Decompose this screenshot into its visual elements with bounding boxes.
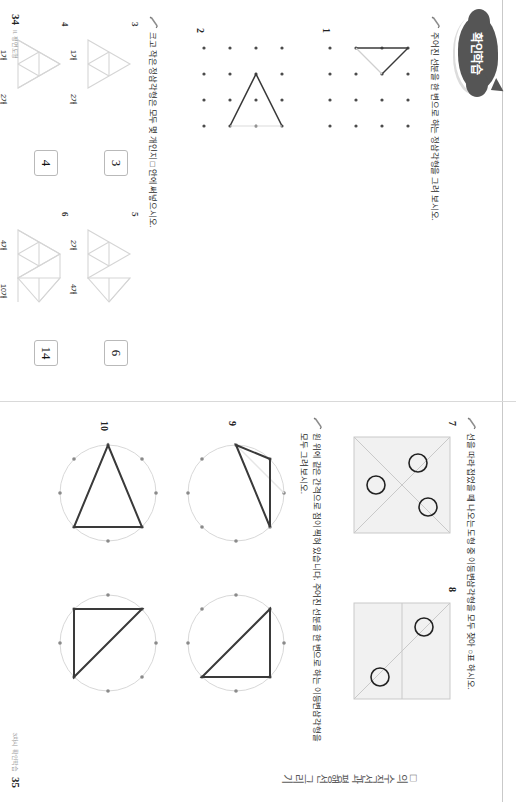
- right-page: □의 수직선과 평행선 그리기 선을 따라 접었을 때 나오는 도형 중 이등변…: [0, 401, 516, 802]
- folio-right: 35 3차시 확인학습: [10, 732, 22, 788]
- folio-label-right: 3차시 확인학습: [10, 732, 20, 772]
- spread-gutter: [0, 401, 516, 402]
- folio-left: 34 II. 평면도형: [10, 14, 22, 59]
- pencil-icon: [313, 417, 322, 430]
- prompt-1: 주어진 선분을 한 변으로 하는 정삼각형을 그려 보시오.: [428, 16, 446, 221]
- count-problem-3-figure: [80, 34, 142, 138]
- header-rule-right: [502, 401, 503, 802]
- count-problem-3-number: 3: [130, 22, 140, 27]
- prompt-9-line2: 모두 그려 보시오.: [297, 433, 315, 494]
- count-problem-4-unit-2: 2개: [0, 94, 10, 105]
- fold-problem-7-number: 7: [447, 421, 458, 426]
- prompt-2: 크고 작은 정삼각형은 모두 몇 개인지 □ 안에 써넣으시오.: [146, 16, 164, 228]
- page-number-right: 35: [10, 777, 22, 788]
- bubble-label: 확인학습: [458, 16, 498, 90]
- dot-problem-2-figure: [188, 28, 298, 178]
- count-problem-4-number: 4: [60, 22, 70, 27]
- workbook-spread: 확인학습 주어진 선분을 한 변으로 하는 정삼각형을 그려 보시오. 1: [0, 0, 516, 802]
- dot-problem-1: 1: [314, 28, 424, 178]
- dot-problem-1-number: 1: [321, 28, 332, 33]
- count-problem-4-unit-1: 1개: [0, 50, 10, 61]
- count-problem-5-figure: [80, 224, 142, 328]
- circle-problem-9-number: 9: [227, 421, 238, 426]
- pencil-icon: [149, 16, 158, 29]
- circle-problem-9-figure: [174, 435, 294, 735]
- count-problem-3-answer[interactable]: 3: [104, 150, 128, 176]
- circle-problem-10-number: 10: [99, 421, 110, 431]
- section-title: □의 수직선과 평행선 그리기: [282, 770, 420, 786]
- prompt-7: 선을 따라 접었을 때 나오는 도형 중 이등변삼각형을 모두 찾아 ○표 하시…: [464, 417, 482, 690]
- count-problem-6-number: 6: [60, 212, 70, 217]
- count-problem-6-answer[interactable]: 14: [34, 340, 58, 366]
- left-page: 확인학습 주어진 선분을 한 변으로 하는 정삼각형을 그려 보시오. 1: [0, 0, 516, 401]
- pencil-icon: [467, 417, 476, 430]
- prompt-7-text: 선을 따라 접었을 때 나오는 도형 중 이등변삼각형을 모두 찾아 ○표 하시…: [466, 433, 476, 690]
- dot-problem-2-number: 2: [195, 28, 206, 33]
- prompt-1-text: 주어진 선분을 한 변으로 하는 정삼각형을 그려 보시오.: [430, 32, 440, 221]
- folio-label-left: II. 평면도형: [10, 30, 20, 59]
- count-problem-6-figure: [10, 224, 72, 328]
- prompt-9-text-line2: 모두 그려 보시오.: [299, 433, 309, 494]
- fold-problem-8-figure: [342, 599, 454, 727]
- confirm-study-bubble: 확인학습: [458, 16, 498, 90]
- circle-problem-10-figure: [46, 435, 166, 735]
- dot-problem-2: 2: [188, 28, 298, 178]
- count-problem-5-answer[interactable]: 6: [104, 340, 128, 366]
- count-problem-6-unit-2: 10개: [0, 284, 10, 299]
- dot-problem-1-figure: [314, 28, 424, 178]
- count-problem-6-unit-1: 4개: [0, 240, 10, 251]
- prompt-2-text: 크고 작은 정삼각형은 모두 몇 개인지 □ 안에 써넣으시오.: [148, 32, 158, 228]
- pencil-icon: [431, 16, 440, 29]
- fold-problem-8-number: 8: [447, 587, 458, 592]
- fold-problem-7-figure: [342, 433, 454, 561]
- count-problem-4-answer[interactable]: 4: [34, 150, 58, 176]
- header-rule-left: [502, 0, 503, 401]
- count-problem-5-number: 5: [130, 212, 140, 217]
- page-number-left: 34: [10, 14, 22, 25]
